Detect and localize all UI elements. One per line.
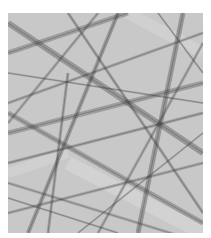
line-pattern-svg (8, 13, 203, 233)
abstract-line-pattern-image (8, 13, 203, 233)
